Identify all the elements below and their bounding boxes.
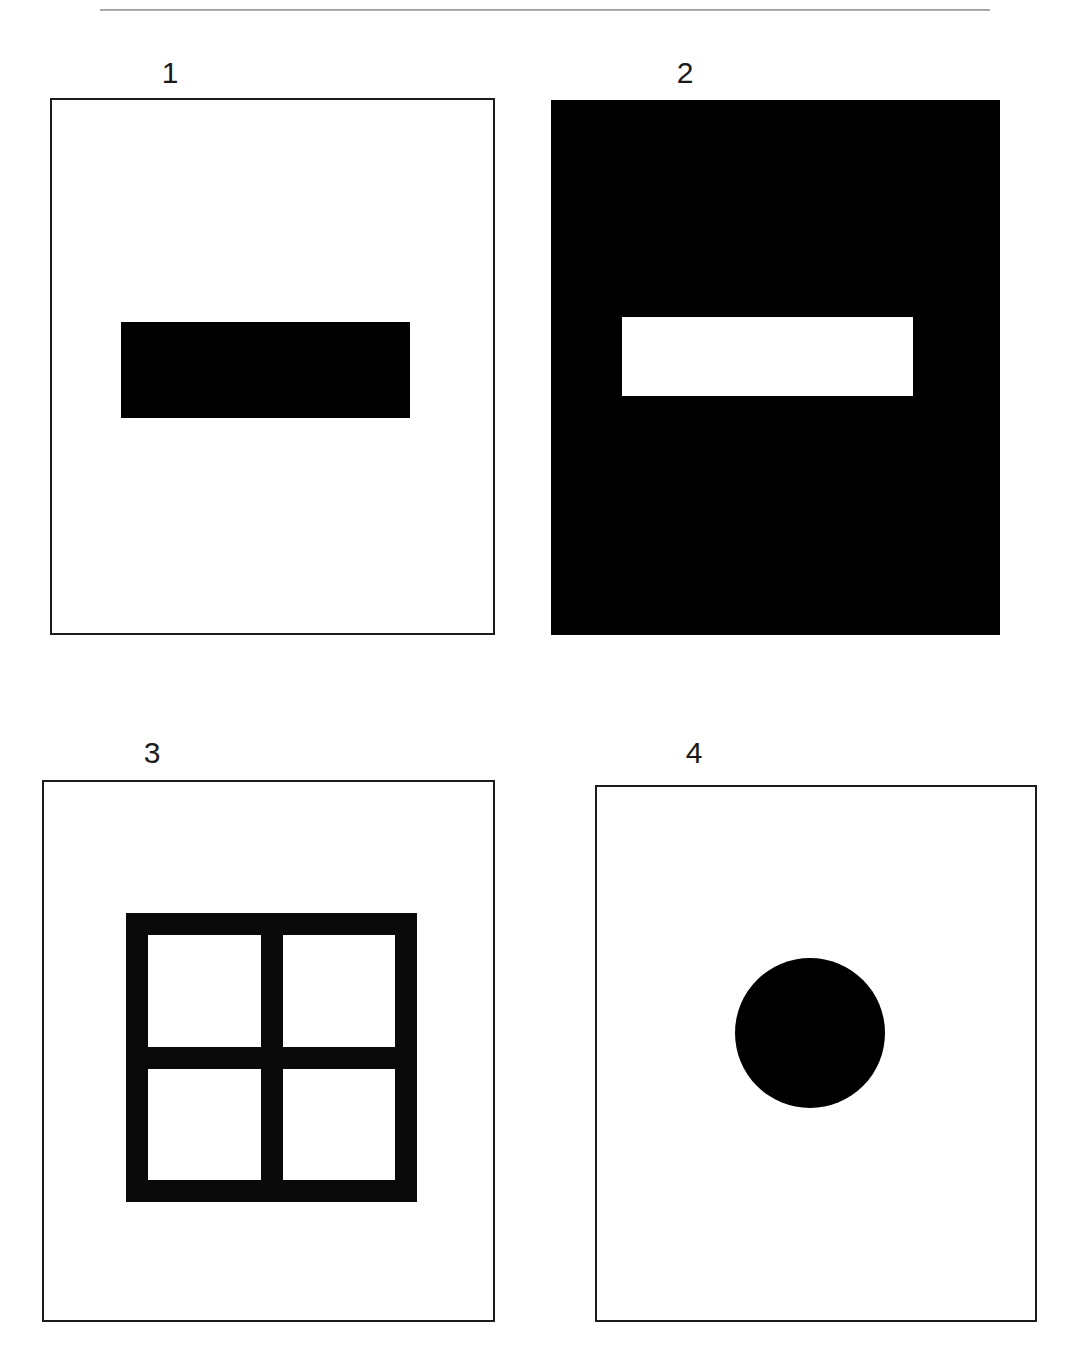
filled-horizontal-bar-shape [121, 322, 410, 418]
filled-circle-shape [735, 958, 885, 1108]
panel-label-2: 2 [655, 58, 715, 88]
grid-pane-top-left [148, 935, 261, 1047]
panel-label-4: 4 [664, 738, 724, 768]
panel-4 [595, 785, 1037, 1322]
panel-1 [50, 98, 495, 635]
hollow-horizontal-bar-shape [622, 317, 913, 396]
four-pane-grid-shape [126, 913, 417, 1202]
panel-label-1: 1 [140, 58, 200, 88]
figure-sheet: 1 2 3 4 [0, 0, 1066, 1352]
panel-3 [42, 780, 495, 1322]
panel-label-3: 3 [122, 738, 182, 768]
panel-2 [551, 100, 1000, 635]
horizontal-rule [100, 9, 990, 11]
grid-pane-bottom-right [283, 1069, 396, 1181]
grid-pane-top-right [283, 935, 396, 1047]
grid-pane-bottom-left [148, 1069, 261, 1181]
